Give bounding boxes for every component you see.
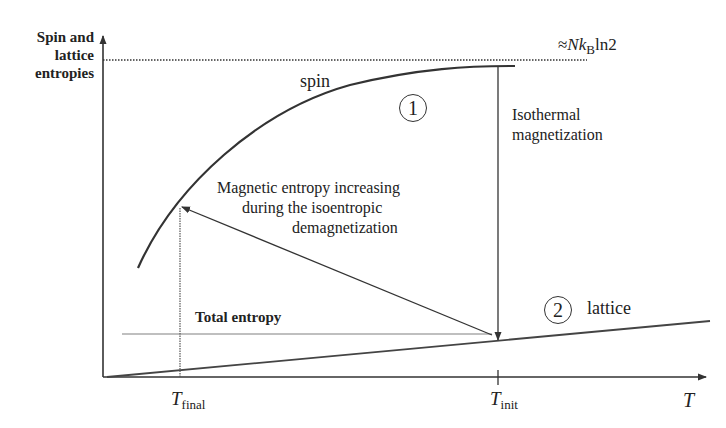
y-axis-label: Spin and lattice entropies	[14, 28, 94, 82]
init-subscript: init	[501, 397, 518, 412]
marker-one: 1	[399, 94, 427, 122]
demag-line-2: during the isoentropic	[217, 198, 400, 218]
y-label-line-1: Spin and	[14, 28, 94, 46]
marker-two: 2	[544, 296, 572, 324]
spin-label: spin	[300, 72, 330, 90]
b-subscript: B	[586, 42, 595, 57]
y-label-line-2: lattice	[14, 46, 94, 64]
final-subscript: final	[182, 397, 206, 412]
approx-symbol: ≈	[558, 35, 567, 54]
t-init-label: Tinit	[490, 389, 518, 411]
lattice-line	[107, 321, 710, 377]
demag-line-1: Magnetic entropy increasing	[217, 178, 400, 198]
x-axis-label: T	[683, 390, 694, 410]
isothermal-line-1: Isothermal	[512, 105, 603, 125]
total-entropy-label: Total entropy	[195, 310, 281, 325]
t-final-label: Tfinal	[171, 389, 205, 411]
ln2-text: ln2	[595, 35, 617, 54]
lattice-label: lattice	[587, 299, 631, 317]
isothermal-label: Isothermal magnetization	[512, 105, 603, 145]
y-label-line-3: entropies	[14, 64, 94, 82]
n-symbol: N	[567, 35, 578, 54]
demagnetization-label: Magnetic entropy increasing during the i…	[217, 178, 400, 238]
saturation-label: ≈NkBln2	[558, 36, 617, 56]
demag-line-3: demagnetization	[217, 218, 400, 238]
isothermal-line-2: magnetization	[512, 125, 603, 145]
t-symbol: T	[490, 388, 501, 409]
t-symbol: T	[171, 388, 182, 409]
